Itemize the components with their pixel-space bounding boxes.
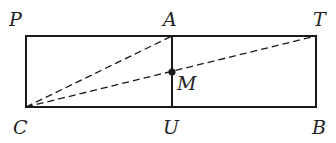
geometry-diagram: P A T C U B M [0,0,336,143]
label-P: P [8,8,23,30]
label-M: M [176,72,197,94]
label-A: A [161,8,177,30]
label-C: C [13,116,28,138]
label-U: U [163,116,180,138]
label-T: T [313,8,327,30]
dashed-segment-CA [26,36,172,107]
point-M-dot [168,68,175,75]
label-B: B [311,116,326,138]
